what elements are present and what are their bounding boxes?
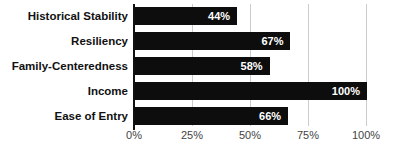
- x-axis-tick-label: 0%: [126, 129, 142, 141]
- x-axis-tick-label: 100%: [352, 129, 380, 141]
- bar: 100%: [135, 82, 367, 100]
- bar-value-label: 67%: [261, 35, 290, 47]
- bar-rows: Historical Stability44%Resiliency67%Fami…: [0, 3, 396, 128]
- bar-track: 58%: [135, 53, 367, 78]
- x-axis-tick-label: 50%: [239, 129, 261, 141]
- bar-row: Resiliency67%: [0, 28, 396, 53]
- bar-value-label: 100%: [332, 85, 367, 97]
- bar-value-label: 66%: [259, 110, 288, 122]
- bar-row: Ease of Entry66%: [0, 103, 396, 128]
- bar-row: Family-Centeredness58%: [0, 53, 396, 78]
- bar-track: 44%: [135, 3, 367, 28]
- x-axis: 0%25%50%75%100%: [134, 129, 366, 145]
- category-label: Ease of Entry: [0, 110, 134, 122]
- bar: 66%: [135, 107, 288, 125]
- bar: 67%: [135, 32, 290, 50]
- bar-track: 67%: [135, 28, 367, 53]
- category-label: Income: [0, 85, 134, 97]
- category-label: Historical Stability: [0, 10, 134, 22]
- bar-track: 100%: [135, 78, 367, 103]
- x-axis-tick-label: 75%: [297, 129, 319, 141]
- bar-track: 66%: [135, 103, 367, 128]
- category-label: Family-Centeredness: [0, 60, 134, 72]
- bar: 58%: [135, 57, 270, 75]
- x-axis-tick-label: 25%: [181, 129, 203, 141]
- bar-chart: Historical Stability44%Resiliency67%Fami…: [0, 0, 396, 155]
- bar-row: Income100%: [0, 78, 396, 103]
- bar-value-label: 44%: [208, 10, 237, 22]
- category-label: Resiliency: [0, 35, 134, 47]
- bar: 44%: [135, 7, 237, 25]
- bar-value-label: 58%: [241, 60, 270, 72]
- bar-row: Historical Stability44%: [0, 3, 396, 28]
